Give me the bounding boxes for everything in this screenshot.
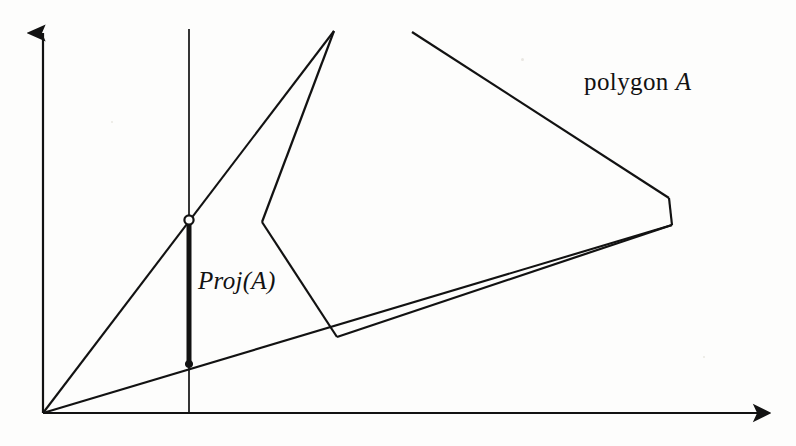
polygon-label-word: polygon [584, 68, 669, 95]
diagram-canvas [0, 0, 796, 446]
polygon-A-right-tip-cap [669, 198, 672, 225]
proj-a-label: Proj(A) [198, 267, 276, 295]
figure-root: polygonA Proj(A) [0, 0, 796, 446]
proj-bottom-filled-dot-marker [185, 360, 192, 367]
polygon-a-label: polygonA [584, 68, 691, 96]
polygon-A-lower-arm-bottom-edge [337, 225, 672, 337]
proj-segment-group [184, 215, 193, 367]
polygon-label-symbol: A [669, 68, 692, 95]
cone-rays-group [43, 31, 672, 413]
proj-top-open-circle-marker [184, 215, 193, 224]
polygon-A-lower-arm-top-edge [412, 32, 669, 198]
lower-cone-ray [43, 225, 672, 413]
polygon-A-left-arm-edge [262, 31, 334, 222]
